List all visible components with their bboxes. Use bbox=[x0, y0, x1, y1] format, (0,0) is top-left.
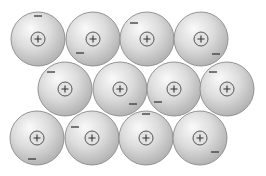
ion-sphere bbox=[65, 111, 119, 165]
ion-sphere bbox=[147, 62, 201, 116]
ion-sphere bbox=[200, 62, 254, 116]
metallic-lattice-diagram bbox=[0, 0, 266, 176]
ion-sphere bbox=[174, 12, 228, 66]
ion-sphere bbox=[93, 62, 147, 116]
ion-sphere bbox=[119, 111, 173, 165]
ion-sphere bbox=[38, 62, 92, 116]
ion-sphere bbox=[173, 111, 227, 165]
ion-group bbox=[10, 12, 254, 165]
ion-sphere bbox=[10, 111, 64, 165]
ion-sphere bbox=[66, 12, 120, 66]
ion-sphere bbox=[11, 12, 65, 66]
ion-sphere bbox=[120, 12, 174, 66]
